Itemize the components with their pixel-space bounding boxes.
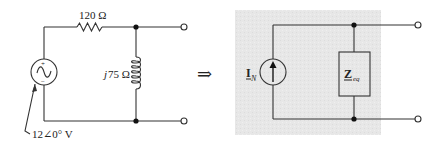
terminal-top-norton bbox=[415, 22, 421, 28]
terminal-bottom-left-circuit bbox=[181, 118, 187, 124]
inductor-icon bbox=[132, 57, 141, 89]
inductor-label-value: 75 Ω bbox=[108, 68, 130, 80]
norton-equivalent-shaded-box bbox=[235, 10, 381, 135]
terminal-bottom-norton bbox=[415, 116, 421, 122]
source-plus-sign: + bbox=[41, 60, 45, 68]
sine-wave-icon bbox=[37, 67, 51, 77]
resistor-icon bbox=[77, 23, 102, 31]
node-bottom-left-circuit bbox=[133, 118, 138, 123]
terminal-top-left-circuit bbox=[181, 24, 187, 30]
transform-arrow: ⇒ bbox=[197, 64, 212, 84]
impedance-label: Z bbox=[344, 67, 352, 81]
node-bottom-norton bbox=[351, 116, 356, 121]
impedance-subscript: eq bbox=[353, 75, 360, 83]
source-minus-sign: − bbox=[41, 78, 45, 86]
inductor-label-j: j bbox=[102, 68, 107, 80]
node-top-norton bbox=[351, 22, 356, 27]
current-source-subscript: N bbox=[250, 74, 257, 83]
source-label: 12∠0° V bbox=[32, 128, 73, 140]
node-top-left-circuit bbox=[133, 24, 138, 29]
resistor-label: 120 Ω bbox=[79, 9, 106, 21]
circuit-diagram: + − 120 Ω j 75 Ω 12∠0° V ⇒ I N Z eq bbox=[0, 0, 435, 144]
